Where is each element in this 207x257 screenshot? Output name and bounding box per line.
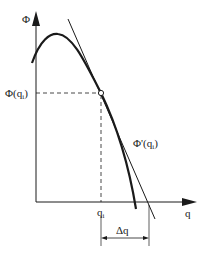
dimension-arrow-left-icon bbox=[101, 236, 107, 240]
delta-q-label: Δq bbox=[116, 225, 129, 236]
function-curve bbox=[32, 34, 136, 209]
dimension-arrow-right-icon bbox=[143, 236, 149, 240]
x-axis-label: q bbox=[185, 208, 191, 219]
qi-label: qi bbox=[97, 207, 104, 220]
phi-qi-label: Φ(qi) bbox=[5, 88, 28, 101]
x-axis-arrow-icon bbox=[182, 198, 197, 206]
y-axis-label: Φ bbox=[22, 14, 30, 25]
tangent-line bbox=[68, 19, 155, 219]
y-axis-arrow-icon bbox=[32, 11, 40, 26]
derivative-label: Φ'(qi) bbox=[133, 138, 158, 151]
tangent-point bbox=[98, 90, 103, 95]
